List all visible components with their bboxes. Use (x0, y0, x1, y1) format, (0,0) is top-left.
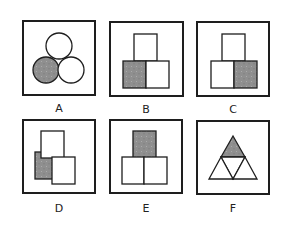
right-circle (58, 57, 84, 83)
shaded-square (123, 61, 146, 88)
top-circle (46, 33, 72, 59)
option-label: D (55, 202, 63, 215)
shaded-square (133, 131, 156, 158)
option-label: F (230, 202, 236, 215)
left-square (122, 157, 144, 184)
option-e[interactable]: E (110, 120, 182, 215)
top-square (41, 131, 64, 158)
top-square (222, 34, 245, 61)
right-square (146, 61, 169, 88)
option-b[interactable]: B (110, 22, 183, 116)
top-square (134, 34, 157, 61)
right-square (52, 157, 75, 184)
option-f[interactable]: F (197, 121, 269, 215)
shaded-square (234, 61, 257, 88)
option-label: E (143, 202, 150, 215)
option-label: C (229, 103, 237, 116)
shaded-circle (33, 57, 59, 83)
left-square (211, 61, 234, 88)
option-label: B (142, 103, 150, 116)
option-label: A (55, 102, 63, 115)
option-d[interactable]: D (23, 120, 95, 215)
options-diagram: A B C D E F (0, 0, 283, 228)
right-square (144, 157, 167, 184)
option-a[interactable]: A (23, 21, 95, 115)
option-c[interactable]: C (197, 22, 269, 116)
